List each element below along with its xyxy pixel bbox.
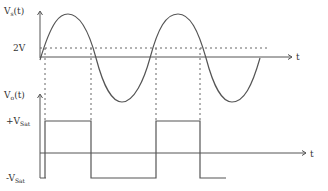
crossing-guides (45, 48, 200, 121)
reference-2v-label: 2V (13, 43, 26, 53)
input-t-label: t (296, 52, 300, 62)
minus-vsat-label: -VSat (6, 173, 26, 184)
vo-axis-label: Vo(t) (3, 90, 25, 101)
vs-axis-label: Vs(t) (3, 6, 24, 17)
input-sine-wave (40, 14, 260, 102)
input-axes (38, 11, 293, 60)
output-square-wave (45, 121, 226, 178)
comparator-diagram: Vs(t) 2V t Vo(t) +VSat -VSat t (0, 0, 328, 191)
output-t-label: t (310, 149, 314, 159)
output-axes (38, 94, 307, 178)
plus-vsat-label: +VSat (6, 116, 31, 127)
